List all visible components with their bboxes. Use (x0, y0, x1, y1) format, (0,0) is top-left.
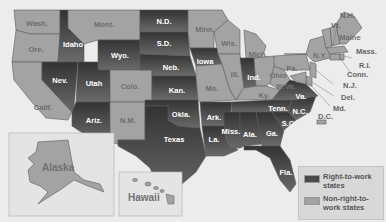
label-ill: Ill. (231, 70, 239, 79)
label-ariz: Ariz. (86, 116, 102, 125)
legend-swatch-dark (304, 175, 320, 183)
label-ny: N.Y. (313, 51, 327, 60)
label-wva: W.Va. (276, 82, 296, 91)
label-ky: Ky. (258, 91, 269, 100)
label-nev: Nev. (52, 76, 67, 85)
label-md: Md. (333, 104, 346, 113)
label-colo: Colo. (121, 82, 140, 91)
label-la: La. (209, 135, 220, 144)
label-ind: Ind. (247, 73, 260, 82)
label-pa: Pa. (286, 64, 297, 73)
label-ore: Ore. (28, 45, 43, 54)
label-texas: Texas (164, 135, 185, 144)
state-nj (310, 62, 316, 78)
label-nc: N.C. (293, 107, 308, 116)
label-nh: N.H. (340, 11, 355, 20)
legend-swatch-light (304, 197, 320, 205)
label-dc: D.C. (318, 112, 333, 121)
label-va: Va. (296, 92, 307, 101)
label-ri: R.I. (359, 61, 371, 70)
label-calif: Calif. (34, 103, 52, 112)
state-conn (330, 54, 340, 60)
label-fla: Fla. (280, 168, 293, 177)
label-iowa: Iowa (197, 57, 214, 66)
label-del: Del. (341, 93, 355, 102)
label-miss: Miss. (222, 127, 241, 136)
label-sd: S.D. (157, 39, 172, 48)
label-wis: Wis. (221, 39, 236, 48)
legend-label: Right-to-work states (323, 173, 383, 190)
label-ark: Ark. (207, 113, 222, 122)
label-idaho: Idaho (63, 40, 83, 49)
label-mont: Mont. (94, 20, 114, 29)
label-minn: Minn. (195, 25, 215, 34)
label-conn: Conn. (347, 70, 368, 79)
label-maine: Maine (339, 33, 360, 42)
label-hawaii: Hawaii (128, 192, 160, 203)
legend-item-right-to-work: Right-to-work states (304, 173, 383, 190)
label-wyo: Wyo. (111, 51, 129, 60)
legend-label: Non-right-to-work states (323, 195, 383, 212)
label-sc: S.C. (282, 119, 297, 128)
label-ga: Ga. (266, 129, 278, 138)
label-nj: N.J. (343, 81, 357, 90)
label-neb: Neb. (163, 63, 179, 72)
label-alaska: Alaska (42, 162, 74, 173)
label-mich: Mich. (248, 50, 267, 59)
label-kan: Kan. (169, 86, 185, 95)
label-mo: Mo. (206, 84, 219, 93)
label-mass: Mass. (356, 47, 377, 56)
legend: Right-to-work states Non-right-to-work s… (298, 166, 384, 220)
label-okla: Okla. (172, 110, 190, 119)
label-utah: Utah (86, 79, 103, 88)
label-nd: N.D. (157, 17, 172, 26)
label-ala: Ala. (243, 130, 257, 139)
label-nm: N.M. (120, 116, 136, 125)
label-ohio: Ohio (269, 71, 286, 80)
label-tenn: Tenn. (268, 104, 287, 113)
label-wash: Wash. (26, 19, 48, 28)
label-vt: Vt. (331, 21, 341, 30)
legend-item-non-right-to-work: Non-right-to-work states (304, 195, 383, 212)
